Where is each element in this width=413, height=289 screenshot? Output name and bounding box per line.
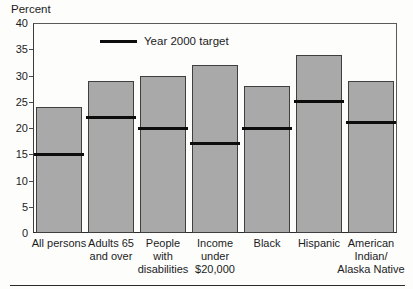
y-tick-mark — [29, 154, 33, 155]
y-tick-label: 30 — [6, 70, 28, 82]
y-tick-label: 20 — [6, 122, 28, 134]
bar — [244, 86, 290, 233]
x-tick-label: AmericanIndian/Alaska Native — [331, 237, 411, 276]
target-line — [34, 153, 84, 156]
bar-chart-figure: Percent 0510152025303540 All personsAdul… — [0, 0, 413, 289]
y-tick-label: 40 — [6, 17, 28, 29]
footer-rule — [10, 285, 405, 286]
legend-target-line-swatch — [100, 40, 137, 43]
bar — [36, 107, 82, 233]
y-tick-label: 5 — [6, 201, 28, 213]
legend-label: Year 2000 target — [144, 35, 229, 47]
legend: Year 2000 target — [100, 34, 229, 48]
y-tick-mark — [29, 181, 33, 182]
bar — [192, 65, 238, 233]
y-tick-mark — [29, 128, 33, 129]
y-tick-mark — [29, 102, 33, 103]
y-tick-label: 10 — [6, 175, 28, 187]
y-tick-mark — [29, 207, 33, 208]
target-line — [294, 100, 344, 103]
target-line — [242, 127, 292, 130]
y-tick-mark — [29, 76, 33, 77]
target-line — [190, 142, 240, 145]
y-tick-label: 15 — [6, 148, 28, 160]
target-line — [346, 121, 396, 124]
bar — [296, 55, 342, 234]
bar — [348, 81, 394, 233]
y-tick-label: 35 — [6, 43, 28, 55]
y-axis-title: Percent — [11, 3, 51, 15]
bar — [88, 81, 134, 233]
target-line — [86, 116, 136, 119]
y-tick-label: 25 — [6, 96, 28, 108]
target-line — [138, 127, 188, 130]
y-tick-mark — [29, 49, 33, 50]
bar — [140, 76, 186, 234]
